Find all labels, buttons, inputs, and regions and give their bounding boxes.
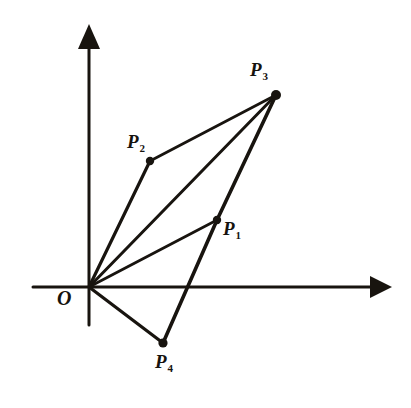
point-label-p2: P2: [127, 132, 144, 151]
point-label-p3-subscript: 3: [263, 70, 269, 82]
point-label-p2-letter: P: [127, 131, 139, 152]
point-label-p1-letter: P: [223, 218, 235, 239]
edge-p1-to-p3: [217, 95, 276, 220]
point-label-p4: P4: [155, 352, 172, 371]
point-label-p1: P1: [223, 219, 240, 238]
vector-diagram-figure: O P1 P2 P3 P4: [0, 0, 411, 408]
edges-group: [89, 95, 276, 343]
edge-p4-to-p1: [163, 220, 217, 343]
x-axis-arrowhead-icon: [370, 276, 392, 298]
point-dot-p1: [213, 216, 221, 224]
edge-o-to-p1: [89, 220, 217, 287]
point-label-p2-subscript: 2: [140, 142, 146, 154]
point-label-p3-letter: P: [250, 59, 262, 80]
point-label-p1-subscript: 1: [236, 229, 242, 241]
point-label-p3: P3: [250, 60, 267, 79]
origin-label-text: O: [57, 287, 71, 309]
edge-o-to-p3: [89, 95, 276, 287]
edge-p2-to-p3: [150, 95, 276, 161]
y-axis-arrowhead-icon: [78, 24, 100, 49]
diagram-canvas: [0, 0, 411, 408]
point-label-p4-letter: P: [155, 351, 167, 372]
edge-o-to-p2: [89, 161, 150, 287]
edge-o-to-p4: [89, 287, 163, 343]
point-dot-p4: [158, 338, 167, 347]
point-dot-p2: [146, 157, 154, 165]
point-dot-p3: [271, 90, 281, 100]
axes-group: [33, 24, 392, 325]
point-label-p4-subscript: 4: [168, 362, 174, 374]
origin-label: O: [57, 288, 71, 308]
